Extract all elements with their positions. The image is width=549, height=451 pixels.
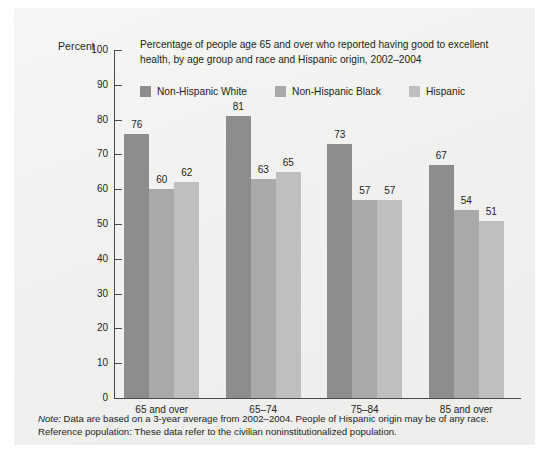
bar[interactable]: 57 [377, 200, 402, 398]
bar[interactable]: 62 [174, 182, 199, 398]
y-axis-tick-label: 70 [56, 148, 108, 159]
y-axis-tick-label: 10 [56, 357, 108, 368]
bar[interactable]: 73 [327, 144, 352, 398]
bar[interactable]: 67 [429, 165, 454, 398]
bar[interactable]: 76 [124, 134, 149, 398]
bar-value-label: 81 [226, 101, 251, 112]
bar[interactable]: 65 [276, 172, 301, 398]
bar-value-label: 57 [352, 185, 377, 196]
y-axis-tick-label: 30 [56, 288, 108, 299]
bar-group: 675451 [429, 50, 504, 398]
bar-value-label: 60 [149, 174, 174, 185]
bar-value-label: 51 [479, 206, 504, 217]
bar[interactable]: 60 [149, 189, 174, 398]
plot-area: 766062816365735757675451 [115, 50, 521, 398]
bar[interactable]: 57 [352, 200, 377, 398]
bar-value-label: 62 [174, 167, 199, 178]
bar-group: 735757 [327, 50, 402, 398]
y-axis-tick-label: 0 [56, 392, 108, 403]
bar-value-label: 54 [454, 195, 479, 206]
x-axis-line [114, 398, 521, 399]
bar-value-label: 76 [124, 119, 149, 130]
bar[interactable]: 81 [226, 116, 251, 398]
y-axis-tick-label: 20 [56, 322, 108, 333]
bar-value-label: 65 [276, 157, 301, 168]
bar-value-label: 63 [251, 164, 276, 175]
chart-figure: Percent 0102030405060708090100 Percentag… [14, 8, 535, 445]
footnote-label: Note: [38, 413, 61, 424]
chart-footnote: Note: Data are based on a 3-year average… [38, 412, 516, 438]
bar-value-label: 67 [429, 150, 454, 161]
bar[interactable]: 51 [479, 221, 504, 398]
y-axis-tick-label: 50 [56, 218, 108, 229]
y-axis-tick-label: 80 [56, 114, 108, 125]
footnote-text: Data are based on a 3-year average from … [38, 413, 489, 437]
bar[interactable]: 63 [251, 179, 276, 398]
bar-value-label: 57 [377, 185, 402, 196]
bar[interactable]: 54 [454, 210, 479, 398]
y-axis-tick-label: 100 [56, 44, 108, 55]
y-axis-tick-label: 60 [56, 183, 108, 194]
bar-value-label: 73 [327, 129, 352, 140]
y-axis-tick-label: 40 [56, 253, 108, 264]
bar-group: 816365 [226, 50, 301, 398]
y-axis-tick-label: 90 [56, 79, 108, 90]
bar-group: 766062 [124, 50, 199, 398]
